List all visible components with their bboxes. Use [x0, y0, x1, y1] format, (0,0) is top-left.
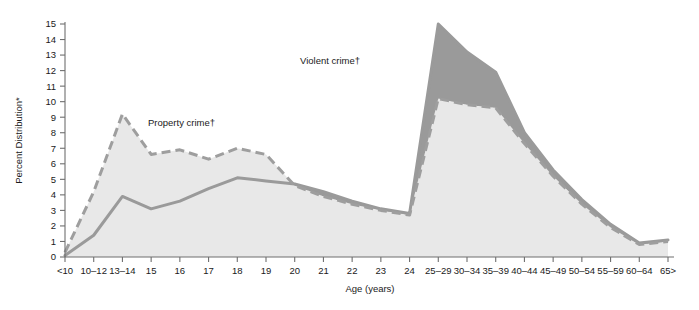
x-tick-label: 10–12	[81, 265, 107, 276]
x-tick-label: 17	[203, 265, 214, 276]
y-tick-label: 6	[51, 158, 56, 169]
x-tick-label: 18	[232, 265, 243, 276]
x-tick-label: 24	[404, 265, 415, 276]
y-tick-label: 0	[51, 251, 56, 262]
y-tick-label: 5	[51, 174, 56, 185]
x-tick-label: 65>	[660, 265, 677, 276]
y-tick-label: 11	[46, 81, 56, 92]
x-tick-label: 19	[261, 265, 272, 276]
y-axis-title: Percent Distribution*	[13, 97, 24, 184]
y-tick-label: 12	[45, 65, 56, 76]
y-tick-label: 9	[51, 112, 56, 123]
violent-crime-annotation: Violent crime†	[300, 55, 360, 66]
y-tick-label: 2	[51, 220, 56, 231]
property-crime-annotation: Property crime†	[148, 117, 215, 128]
chart-canvas: 0123456789101112131415<1010–1213–1415161…	[0, 0, 699, 310]
x-tick-label: 50–54	[569, 265, 595, 276]
x-tick-label: 13–14	[109, 265, 135, 276]
x-tick-label: 22	[347, 265, 358, 276]
x-tick-label: 25–29	[425, 265, 451, 276]
x-tick-label: <10	[57, 265, 73, 276]
x-tick-label: 15	[146, 265, 157, 276]
x-tick-label: 20	[289, 265, 300, 276]
x-axis-title: Age (years)	[345, 283, 394, 294]
x-tick-label: 21	[318, 265, 329, 276]
y-tick-label: 3	[51, 205, 56, 216]
crime-age-distribution-chart: 0123456789101112131415<1010–1213–1415161…	[0, 0, 699, 310]
x-tick-label: 16	[175, 265, 186, 276]
y-tick-label: 10	[45, 96, 56, 107]
y-tick-label: 14	[45, 34, 56, 45]
x-tick-label: 40–44	[511, 265, 537, 276]
y-tick-label: 7	[51, 143, 56, 154]
y-tick-label: 8	[51, 127, 56, 138]
y-tick-label: 1	[51, 236, 56, 247]
x-tick-label: 30–34	[454, 265, 480, 276]
y-tick-label: 4	[51, 189, 56, 200]
x-tick-label: 55–59	[597, 265, 623, 276]
x-tick-label: 23	[376, 265, 387, 276]
x-tick-label: 35–39	[483, 265, 509, 276]
y-tick-label: 15	[45, 18, 56, 29]
y-tick-label: 13	[45, 49, 56, 60]
x-tick-label: 45–49	[540, 265, 566, 276]
x-tick-label: 60–64	[626, 265, 652, 276]
